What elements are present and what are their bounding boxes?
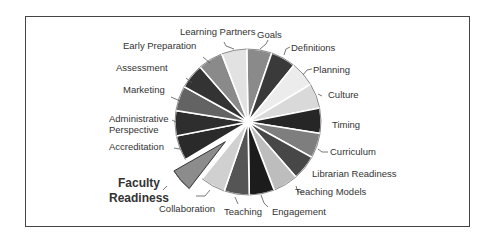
label-goals: Goals bbox=[257, 29, 282, 40]
label-marketing: Marketing bbox=[123, 84, 165, 95]
label-teaching-models: Teaching Models bbox=[295, 186, 367, 197]
label-librarian-readiness: Librarian Readiness bbox=[312, 168, 397, 179]
label-faculty-readiness-1: Faculty bbox=[118, 176, 160, 190]
pie-center bbox=[244, 118, 253, 127]
label-assessment: Assessment bbox=[116, 62, 168, 73]
label-faculty-readiness-2: Readiness bbox=[109, 191, 169, 205]
label-curriculum: Curriculum bbox=[330, 146, 376, 157]
label-early-preparation: Early Preparation bbox=[123, 40, 196, 51]
label-administrative-2: Perspective bbox=[109, 124, 159, 135]
label-definitions: Definitions bbox=[291, 42, 336, 53]
label-teaching: Teaching bbox=[224, 206, 262, 217]
label-timing: Timing bbox=[332, 119, 360, 130]
label-accreditation: Accreditation bbox=[109, 141, 164, 152]
label-engagement: Engagement bbox=[272, 206, 326, 217]
pie-chart: Learning Partners Goals Definitions Plan… bbox=[0, 0, 493, 244]
label-learning-partners: Learning Partners bbox=[180, 26, 256, 37]
label-administrative-1: Administrative bbox=[109, 113, 169, 124]
label-planning: Planning bbox=[313, 64, 350, 75]
label-culture: Culture bbox=[328, 89, 359, 100]
